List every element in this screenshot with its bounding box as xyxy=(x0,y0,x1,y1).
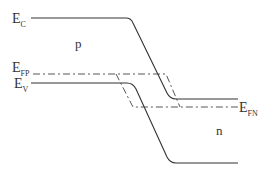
fermi-level-n-curve xyxy=(116,74,238,107)
ev-label: EV xyxy=(14,76,29,94)
valence-band-curve xyxy=(31,83,238,163)
band-diagram: EC p EFP EV EFN n xyxy=(0,0,269,169)
fermi-level-p-curve xyxy=(33,74,180,107)
ec-label: EC xyxy=(12,11,26,29)
efn-label: EFN xyxy=(239,100,258,118)
n-region-label: n xyxy=(216,123,223,138)
p-region-label: p xyxy=(75,36,82,51)
